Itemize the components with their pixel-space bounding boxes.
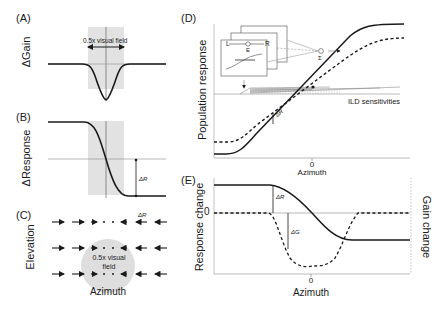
panel-d-ild-annotation: ILD sensitivities (348, 97, 400, 106)
panel-b-delta-r: ΔR (139, 176, 147, 182)
panel-c-field-label-2: field (91, 263, 127, 270)
panel-e-plot (214, 178, 411, 277)
panel-c-delta-r: ΔR (138, 212, 146, 218)
figure-graphics (0, 0, 434, 309)
panel-e-ytick-zero: 0 (204, 206, 210, 217)
panel-e-ylabel-left: Response change (193, 182, 205, 272)
panel-d-ylabel: Population response (196, 40, 208, 140)
panel-c-xlabel: Azimuth (78, 286, 138, 297)
inset-sum-label: Σ (318, 55, 322, 61)
panel-e-delta-r: ΔR (276, 194, 284, 200)
panel-e-delta-g: ΔG (291, 229, 300, 235)
panel-b-ylabel: ΔResponse (20, 120, 32, 196)
inset-left-label: L (226, 40, 230, 47)
panel-a-field-annotation: 0.5x visual field (83, 37, 127, 44)
inset-right-label: R (265, 40, 270, 47)
panel-c-field-label-1: 0.5x visual (91, 254, 127, 261)
panel-e-ylabel-right: Gain change (421, 192, 433, 262)
panel-a-label: (A) (16, 12, 31, 24)
panel-d-label: (D) (181, 12, 196, 24)
panel-d-xlabel: Azimuth (292, 168, 332, 177)
panel-d-plot (214, 24, 410, 161)
panel-a-ylabel: ΔGain (20, 24, 32, 80)
inset-node-label: E (246, 47, 250, 53)
panel-c-ylabel: Elevation (24, 219, 36, 275)
panel-b-plot (48, 121, 166, 198)
panel-e-xtick-zero: 0 (305, 276, 317, 285)
network-inset (221, 26, 340, 88)
panel-e-xlabel: Azimuth (281, 287, 341, 298)
